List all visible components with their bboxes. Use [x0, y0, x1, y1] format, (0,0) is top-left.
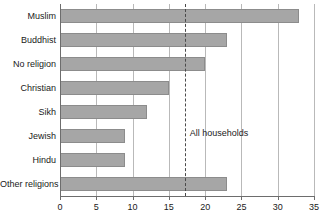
x-tick-15: [169, 196, 170, 200]
category-label-slot: Buddhist: [0, 28, 56, 52]
x-tick-label-35: 35: [302, 201, 325, 213]
category-label-slot: Jewish: [0, 124, 56, 148]
category-label-christian: Christian: [0, 76, 56, 100]
x-tick-label-25: 25: [229, 201, 253, 213]
x-tick-30: [278, 196, 279, 200]
category-label-slot: Hindu: [0, 148, 56, 172]
bar-muslim: [60, 9, 299, 23]
x-tick-35: [314, 196, 315, 200]
category-label-slot: Christian: [0, 76, 56, 100]
bar-row: [60, 148, 314, 172]
category-label-other-religions: Other religions: [0, 172, 56, 196]
all-households-label: All households: [190, 129, 249, 138]
category-label-slot: Sikh: [0, 100, 56, 124]
x-tick-25: [241, 196, 242, 200]
y-axis-line: [60, 4, 61, 196]
bar-jewish: [60, 129, 125, 143]
category-label-hindu: Hindu: [0, 148, 56, 172]
x-tick-label-0: 0: [48, 201, 72, 213]
category-label-slot: Muslim: [0, 4, 56, 28]
gridline-35: [314, 4, 315, 196]
x-tick-label-15: 15: [157, 201, 181, 213]
bar-hindu: [60, 153, 125, 167]
bar-buddhist: [60, 33, 227, 47]
category-axis-labels: Muslim Buddhist No religion Christian Si…: [0, 4, 56, 196]
x-tick-10: [133, 196, 134, 200]
x-tick-5: [96, 196, 97, 200]
bar-other-religions: [60, 177, 227, 191]
plot-area: All households: [60, 4, 314, 196]
bar-row: [60, 28, 314, 52]
all-households-reference: [185, 4, 186, 196]
bar-row: [60, 124, 314, 148]
x-tick-20: [205, 196, 206, 200]
bar-chart: Muslim Buddhist No religion Christian Si…: [0, 0, 325, 217]
bar-no-religion: [60, 57, 205, 71]
category-label-buddhist: Buddhist: [0, 28, 56, 52]
category-label-no-religion: No religion: [0, 52, 56, 76]
bar-christian: [60, 81, 169, 95]
bar-row: [60, 76, 314, 100]
category-label-slot: No religion: [0, 52, 56, 76]
x-tick-label-30: 30: [266, 201, 290, 213]
x-tick-label-20: 20: [193, 201, 217, 213]
x-tick-0: [60, 196, 61, 200]
bar-sikh: [60, 105, 147, 119]
x-tick-label-5: 5: [84, 201, 108, 213]
bar-row: [60, 4, 314, 28]
category-label-jewish: Jewish: [0, 124, 56, 148]
category-label-sikh: Sikh: [0, 100, 56, 124]
category-label-muslim: Muslim: [0, 4, 56, 28]
category-label-slot: Other religions: [0, 172, 56, 196]
x-tick-label-10: 10: [121, 201, 145, 213]
bar-row: [60, 172, 314, 196]
bar-row: [60, 52, 314, 76]
bar-row: [60, 100, 314, 124]
